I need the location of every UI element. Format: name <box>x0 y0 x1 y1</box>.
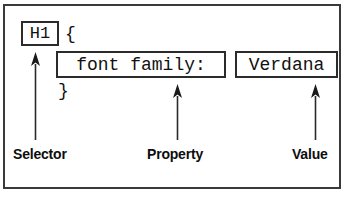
value-label: Value <box>292 147 328 161</box>
selector-label: Selector <box>13 147 67 161</box>
value-arrow <box>310 84 321 140</box>
up-arrow-icon <box>310 84 321 140</box>
opening-brace: { <box>65 25 76 43</box>
value-box: Verdana <box>235 51 338 78</box>
up-arrow-icon <box>172 84 183 140</box>
property-box: font family: <box>56 51 226 78</box>
up-arrow-icon <box>30 52 41 140</box>
css-rule-anatomy-figure: H1 { font family: Verdana } Selector Pro… <box>0 0 349 209</box>
closing-brace: } <box>58 82 69 100</box>
property-arrow <box>172 84 183 140</box>
property-label: Property <box>147 147 203 161</box>
selector-box: H1 <box>21 21 59 46</box>
selector-arrow <box>30 52 41 140</box>
